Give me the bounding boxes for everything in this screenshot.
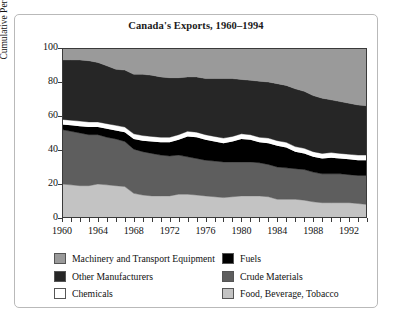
legend-item[interactable]: Food, Beverage, Tobacco [222, 285, 394, 303]
x-tick-label: 1984 [257, 225, 297, 236]
x-tick-mark [331, 218, 332, 222]
x-tick-mark [197, 218, 198, 222]
x-tick-mark [358, 218, 359, 222]
x-tick-mark [206, 218, 207, 222]
x-tick-mark [340, 218, 341, 222]
x-tick-label: 1972 [150, 225, 190, 236]
x-tick-mark [134, 218, 135, 222]
legend-label: Machinery and Transport Equipment [72, 253, 215, 264]
x-tick-label: 1980 [221, 225, 261, 236]
legend-item[interactable]: Chemicals [54, 285, 226, 303]
legend-swatch-icon [222, 253, 234, 264]
x-tick-mark [268, 218, 269, 222]
y-tick-label: 0 [24, 211, 58, 222]
y-tick-label: 20 [24, 177, 58, 188]
legend-item[interactable]: Machinery and Transport Equipment [54, 250, 226, 268]
y-axis-ticks: 020406080100 [20, 48, 58, 218]
x-tick-mark [349, 218, 350, 222]
legend-swatch-icon [222, 271, 234, 282]
x-tick-mark [125, 218, 126, 222]
legend-swatch-icon [54, 271, 66, 282]
x-tick-mark [143, 218, 144, 222]
x-tick-mark [313, 218, 314, 222]
chart-legend: Machinery and Transport EquipmentOther M… [24, 250, 368, 302]
y-tick-label: 60 [24, 109, 58, 120]
plot-area [62, 48, 367, 218]
x-tick-label: 1968 [114, 225, 154, 236]
legend-label: Chemicals [72, 288, 113, 299]
x-tick-label: 1988 [293, 225, 333, 236]
x-tick-label: 1976 [186, 225, 226, 236]
x-tick-mark [367, 218, 368, 222]
x-tick-mark [98, 218, 99, 222]
legend-item[interactable]: Fuels [222, 250, 394, 268]
x-tick-mark [188, 218, 189, 222]
x-tick-mark [116, 218, 117, 222]
legend-label: Crude Materials [240, 271, 303, 282]
y-tick-label: 80 [24, 75, 58, 86]
x-tick-mark [152, 218, 153, 222]
x-tick-mark [179, 218, 180, 222]
y-axis-label: Cumulative Percent [0, 0, 9, 92]
legend-swatch-icon [222, 288, 234, 299]
x-tick-mark [107, 218, 108, 222]
x-tick-mark [170, 218, 171, 222]
legend-item[interactable]: Other Manufacturers [54, 268, 226, 286]
y-tick-label: 40 [24, 143, 58, 154]
legend-swatch-icon [54, 253, 66, 264]
x-tick-mark [277, 218, 278, 222]
legend-label: Fuels [240, 253, 261, 264]
legend-column-right: FuelsCrude MaterialsFood, Beverage, Toba… [222, 250, 394, 303]
chart-title: Canada's Exports, 1960–1994 [14, 20, 378, 31]
x-tick-mark [259, 218, 260, 222]
legend-label: Food, Beverage, Tobacco [240, 288, 339, 299]
legend-label: Other Manufacturers [72, 271, 153, 282]
x-tick-mark [250, 218, 251, 222]
x-tick-mark [295, 218, 296, 222]
x-tick-mark [62, 218, 63, 222]
x-axis-ticks: 196019641968197219761980198419881992 [62, 218, 367, 244]
x-tick-mark [161, 218, 162, 222]
y-tick-label: 100 [24, 41, 58, 52]
x-tick-label: 1992 [329, 225, 369, 236]
x-tick-label: 1960 [42, 225, 82, 236]
legend-column-left: Machinery and Transport EquipmentOther M… [54, 250, 226, 303]
x-tick-mark [232, 218, 233, 222]
x-tick-mark [286, 218, 287, 222]
x-tick-mark [215, 218, 216, 222]
x-tick-mark [80, 218, 81, 222]
legend-item[interactable]: Crude Materials [222, 268, 394, 286]
x-tick-mark [71, 218, 72, 222]
x-tick-mark [241, 218, 242, 222]
x-tick-mark [304, 218, 305, 222]
x-tick-label: 1964 [78, 225, 118, 236]
chart-page: Canada's Exports, 1960–1994 Cumulative P… [0, 0, 394, 322]
x-tick-mark [322, 218, 323, 222]
x-tick-mark [223, 218, 224, 222]
x-tick-mark [89, 218, 90, 222]
legend-swatch-icon [54, 288, 66, 299]
stacked-area-svg [62, 48, 367, 218]
